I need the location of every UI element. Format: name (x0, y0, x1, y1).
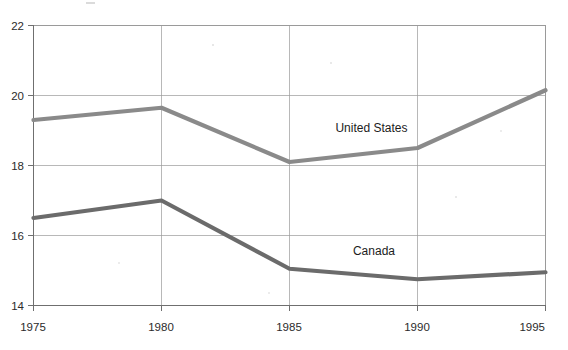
y-tick-label-16: 16 (11, 230, 24, 242)
x-tick-label-1975: 1975 (20, 321, 46, 333)
series-label-united-states: United States (335, 121, 407, 135)
series-label-canada: Canada (353, 244, 395, 258)
x-tick-label-1985: 1985 (276, 321, 302, 333)
chart-background (0, 0, 568, 350)
y-tick-label-20: 20 (11, 90, 24, 102)
chart-container: 22 20 18 16 14 1975 1980 1985 1990 1995 … (0, 0, 568, 350)
x-tick-label-1995: 1995 (519, 321, 545, 333)
y-tick-label-14: 14 (11, 300, 24, 312)
line-chart: 22 20 18 16 14 1975 1980 1985 1990 1995 … (0, 0, 568, 350)
x-tick-label-1980: 1980 (148, 321, 174, 333)
y-tick-label-22: 22 (11, 20, 24, 32)
y-tick-label-18: 18 (11, 160, 24, 172)
x-tick-label-1990: 1990 (404, 321, 430, 333)
